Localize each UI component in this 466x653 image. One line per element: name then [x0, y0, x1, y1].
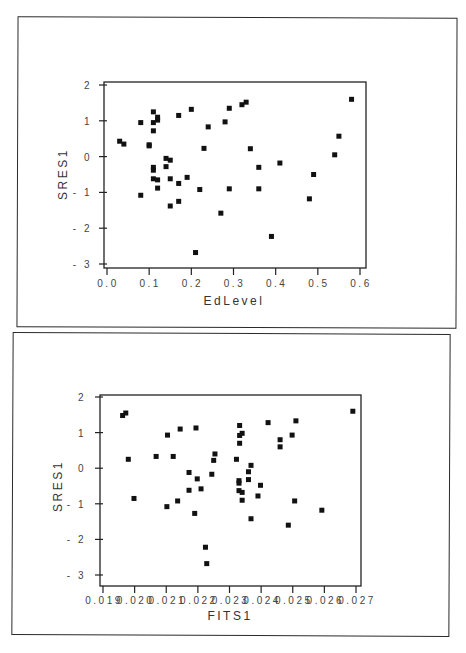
x-tick-label: 0.3 — [224, 278, 245, 289]
data-point — [193, 425, 198, 430]
data-point — [240, 490, 245, 495]
y-tick-label: 1 — [78, 428, 86, 439]
data-point — [203, 545, 208, 550]
data-point — [204, 561, 209, 566]
data-point — [195, 476, 200, 481]
y-tick-label: 1 — [84, 116, 92, 127]
data-point — [138, 120, 143, 125]
data-point — [197, 187, 202, 192]
data-point — [199, 486, 204, 491]
data-point — [123, 411, 128, 416]
y-tick-label: - 3 — [73, 259, 92, 270]
data-point — [255, 493, 260, 498]
x-axis-title: FITS1 — [207, 609, 252, 623]
data-point — [256, 186, 261, 191]
data-point — [246, 477, 251, 482]
data-point — [192, 511, 197, 516]
data-point — [187, 470, 192, 475]
data-point — [278, 437, 283, 442]
scatter-sres1-vs-edlevel: 210- 1- 2- 3 0.00.10.20.30.40.50.6 EdLev… — [56, 80, 372, 308]
data-point — [278, 444, 283, 449]
data-point — [277, 161, 282, 166]
data-point — [258, 483, 263, 488]
y-axis: 210- 1- 2- 3 — [67, 392, 103, 581]
data-point — [176, 199, 181, 204]
data-point — [147, 143, 152, 148]
data-point — [168, 204, 173, 209]
data-point — [244, 100, 249, 105]
y-tick-label: - 2 — [67, 534, 86, 545]
data-point — [290, 433, 295, 438]
data-point — [218, 211, 223, 216]
data-point — [307, 196, 312, 201]
y-tick-label: 2 — [84, 80, 92, 91]
x-tick-label: 0.027 — [338, 595, 376, 606]
data-point — [209, 472, 214, 477]
data-point — [349, 97, 354, 102]
data-point — [311, 172, 316, 177]
data-point — [286, 523, 291, 528]
data-point — [206, 124, 211, 129]
data-point — [176, 181, 181, 186]
data-point — [223, 119, 228, 124]
data-point — [266, 420, 271, 425]
x-tick-label: 0.4 — [266, 278, 287, 289]
x-tick-label: 0.1 — [139, 278, 160, 289]
data-point — [227, 106, 232, 111]
data-point — [319, 508, 324, 513]
data-point — [155, 118, 160, 123]
data-point — [189, 107, 194, 112]
data-point — [211, 458, 216, 463]
data-point — [236, 481, 241, 486]
x-axis: 0.0190.0200.0210.0220.0230.0240.0250.026… — [85, 586, 376, 606]
y-tick-label: - 2 — [73, 223, 92, 234]
data-point — [126, 457, 131, 462]
data-point — [212, 451, 217, 456]
x-axis-title: EdLevel — [204, 294, 265, 308]
y-axis-title: SRES1 — [51, 460, 65, 512]
data-point — [332, 152, 337, 157]
data-point — [168, 176, 173, 181]
x-tick-label: 0.0 — [97, 278, 118, 289]
data-point — [176, 113, 181, 118]
data-points — [117, 97, 354, 255]
data-point — [168, 158, 173, 163]
scatter-sres1-vs-fits1: 210- 1- 2- 3 0.0190.0200.0210.0220.0230.… — [51, 392, 376, 623]
data-point — [178, 427, 183, 432]
data-point — [249, 516, 254, 521]
data-point — [165, 433, 170, 438]
data-point — [350, 409, 355, 414]
data-point — [240, 431, 245, 436]
data-point — [154, 454, 159, 459]
data-point — [155, 186, 160, 191]
data-point — [292, 498, 297, 503]
data-point — [164, 164, 169, 169]
plot-area-border — [104, 82, 366, 268]
x-tick-label: 0.6 — [350, 278, 371, 289]
data-point — [293, 418, 298, 423]
data-point — [336, 134, 341, 139]
data-point — [237, 423, 242, 428]
x-axis: 0.00.10.20.30.40.50.6 — [97, 268, 371, 289]
data-point — [175, 498, 180, 503]
y-tick-label: - 3 — [67, 570, 86, 581]
x-tick-label: 0.5 — [308, 278, 329, 289]
plot-area-border — [100, 395, 361, 586]
data-point — [269, 234, 274, 239]
data-point — [187, 488, 192, 493]
y-tick-label: 0 — [78, 463, 86, 474]
data-point — [138, 193, 143, 198]
data-point — [185, 175, 190, 180]
y-tick-label: - 1 — [73, 187, 92, 198]
data-points — [120, 409, 355, 566]
data-point — [171, 454, 176, 459]
residual-plots: 210- 1- 2- 3 0.00.10.20.30.40.50.6 EdLev… — [0, 0, 466, 653]
x-tick-label: 0.2 — [182, 278, 203, 289]
data-point — [201, 146, 206, 151]
data-point — [151, 128, 156, 133]
data-point — [237, 441, 242, 446]
data-point — [155, 177, 160, 182]
data-point — [248, 146, 253, 151]
data-point — [227, 186, 232, 191]
data-point — [151, 168, 156, 173]
